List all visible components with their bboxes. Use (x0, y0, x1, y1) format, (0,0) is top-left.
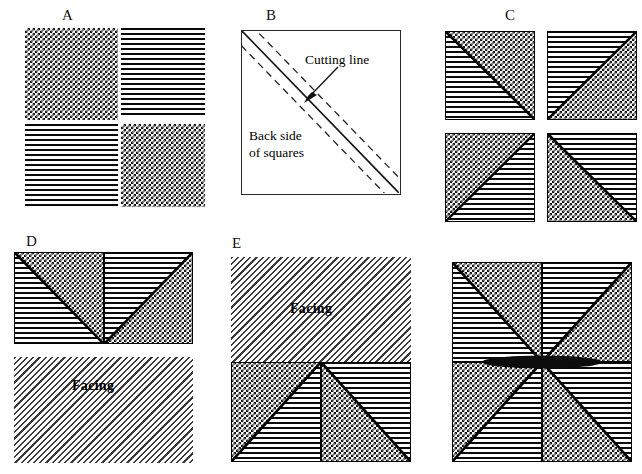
panel-c-tile-bottom-left-diagonal (445, 133, 535, 222)
panel-f-quadrant-top-right-diagonal (542, 262, 632, 362)
panel-d-facing-label: Facing (72, 378, 114, 394)
panel-a-tile-top-left (25, 28, 118, 120)
panel-label-a: A (62, 8, 73, 23)
panel-f-quadrant-bottom-right-diagonal (542, 362, 632, 462)
panel-a-tile-bottom-left (25, 124, 118, 207)
panel-d-unit-right-diagonal (104, 252, 193, 344)
panel-c-tile-top-left-diagonal (445, 31, 535, 120)
panel-a-tile-top-right (121, 28, 205, 117)
panel-d-facing (14, 357, 193, 463)
panel-d-unit-left-diagonal (14, 252, 104, 344)
panel-label-b: B (266, 8, 276, 23)
panel-label-c: C (505, 8, 515, 23)
panel-f-quadrant-top-right (542, 262, 632, 362)
panel-f-centre-seam (480, 352, 604, 372)
panel-e-unit-left-diagonal (231, 362, 321, 462)
panel-label-d: D (26, 234, 37, 249)
panel-f-quadrant-bottom-right (542, 362, 632, 462)
cutting-line-label: Cutting line (305, 52, 369, 69)
panel-label-e: E (232, 236, 241, 251)
figure-canvas: A B Cutting line Back side of squares C (0, 0, 642, 474)
panel-e-unit-left (231, 362, 321, 462)
panel-e-unit-right-diagonal (321, 362, 411, 462)
panel-e-facing-label: Facing (290, 301, 332, 317)
panel-f-quadrant-top-left (452, 262, 542, 362)
panel-c-tile-top-left (445, 31, 535, 120)
panel-e-unit-right (321, 362, 411, 462)
cutting-line-arrow-shaft (309, 67, 338, 97)
panel-c-tile-top-right (547, 31, 637, 120)
panel-f-quadrant-bottom-left-diagonal (452, 362, 542, 462)
panel-d-unit-left (14, 252, 104, 344)
panel-d-unit-right (104, 252, 193, 344)
panel-c-tile-bottom-right (547, 133, 637, 222)
panel-f-quadrant-top-left-diagonal (452, 262, 542, 362)
panel-c-tile-top-right-diagonal (547, 31, 637, 120)
panel-a-tile-bottom-right (121, 124, 205, 207)
panel-f-quadrant-bottom-left (452, 362, 542, 462)
back-side-label-line2: of squares (249, 145, 304, 162)
back-side-label-line1: Back side (249, 128, 302, 145)
panel-c-tile-bottom-right-diagonal (547, 133, 637, 222)
panel-c-tile-bottom-left (445, 133, 535, 222)
